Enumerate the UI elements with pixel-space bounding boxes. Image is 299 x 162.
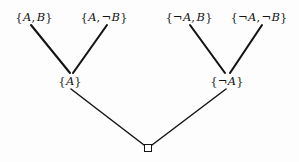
node-ab-first-literal: A — [23, 10, 31, 24]
empty-set-square-icon — [144, 144, 152, 152]
node-a-not-b-first-literal: A — [88, 10, 96, 24]
edge-anotb-to-a — [73, 25, 107, 73]
node-not-a-not-b: {¬A,¬B} — [231, 11, 288, 24]
edge-a-to-empty — [71, 89, 144, 145]
node-a-literal: A — [66, 74, 74, 88]
lattice-diagram: {A,B} {A,¬B} {¬A,B} {¬A,¬B} {A} {¬A} — [0, 0, 299, 162]
node-not-a-b-second-literal: B — [197, 10, 206, 24]
edge-ab-to-a — [31, 25, 70, 73]
node-ab: {A,B} — [15, 11, 52, 24]
node-not-a-literal: A — [228, 74, 236, 88]
node-not-a: {¬A} — [210, 75, 243, 88]
node-not-a-b: {¬A,B} — [165, 11, 212, 24]
node-ab-close-brace: } — [45, 10, 52, 24]
node-not-a-b-close-brace: } — [205, 10, 212, 24]
node-a: {A} — [58, 75, 82, 88]
node-a-not-b-second-literal: B — [112, 10, 121, 24]
edge-notanotb-to-nota — [230, 25, 262, 73]
node-not-a-not-b-first-literal: A — [248, 10, 256, 24]
node-not-a-not-b-close-brace: } — [280, 10, 287, 24]
edge-notab-to-nota — [190, 25, 225, 73]
node-a-close-brace: } — [74, 74, 81, 88]
edge-nota-to-empty — [152, 89, 226, 145]
node-not-a-not-b-first-negation: ¬ — [238, 10, 248, 24]
node-a-not-b: {A,¬B} — [80, 11, 127, 24]
node-not-a-negation: ¬ — [218, 74, 228, 88]
node-not-a-b-first-negation: ¬ — [173, 10, 183, 24]
node-not-a-b-first-literal: A — [183, 10, 191, 24]
node-a-not-b-second-negation: ¬ — [102, 10, 112, 24]
node-a-not-b-close-brace: } — [120, 10, 127, 24]
node-not-a-close-brace: } — [236, 74, 243, 88]
node-not-a-not-b-second-negation: ¬ — [261, 10, 271, 24]
edge-layer — [0, 0, 299, 162]
node-ab-second-literal: B — [37, 10, 46, 24]
